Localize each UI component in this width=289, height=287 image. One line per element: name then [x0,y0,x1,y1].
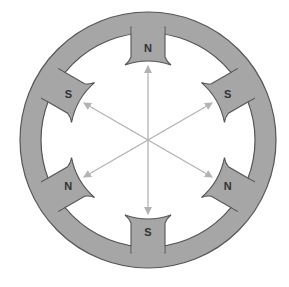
pole-label-north: N [224,180,232,192]
field-arrows [84,66,212,214]
stator-diagram: NSNSNS [0,0,289,287]
pole-label-south: S [144,226,151,238]
pole-label-south: S [224,88,231,100]
pole-label-north: N [144,42,152,54]
pole-label-south: S [65,88,72,100]
pole-label-north: N [64,180,72,192]
stator-canvas: NSNSNS [0,0,289,287]
